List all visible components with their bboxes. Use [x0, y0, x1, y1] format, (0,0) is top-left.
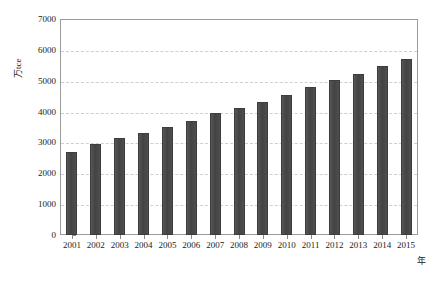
- x-axis-tick-mark: [215, 235, 216, 239]
- x-axis-tick-label: 2001: [63, 240, 81, 250]
- gridline: [61, 51, 417, 52]
- x-axis-tick-mark: [96, 235, 97, 239]
- y-axis-tick-label: 6000: [16, 45, 56, 55]
- y-axis-tick-label: 3000: [16, 137, 56, 147]
- x-axis-tick-mark: [358, 235, 359, 239]
- gridline: [61, 113, 417, 114]
- x-axis-title: 年: [417, 254, 426, 267]
- x-axis-tick-mark: [120, 235, 121, 239]
- y-axis-tick-label: 0: [16, 230, 56, 240]
- x-axis-tick-label: 2005: [158, 240, 176, 250]
- x-axis-tick-label: 2002: [87, 240, 105, 250]
- x-axis-tick-mark: [239, 235, 240, 239]
- y-axis-tick-label: 7000: [16, 14, 56, 24]
- x-axis-tick-mark: [311, 235, 312, 239]
- x-axis-tick-label: 2004: [135, 240, 153, 250]
- x-axis-tick-label: 2013: [349, 240, 367, 250]
- x-axis-tick-mark: [334, 235, 335, 239]
- y-axis-tick-labels: 01000200030004000500060007000: [12, 19, 56, 235]
- x-axis-tick-mark: [144, 235, 145, 239]
- x-axis-tick-label: 2006: [182, 240, 200, 250]
- y-axis-tick-label: 4000: [16, 107, 56, 117]
- x-axis-tick-label: 2003: [111, 240, 129, 250]
- plot-area: [60, 19, 418, 235]
- x-axis-tick-mark: [406, 235, 407, 239]
- x-axis-tick-labels: 2001200220032004200520062007200820092010…: [60, 240, 418, 254]
- bar-chart-figure: 万tce 01000200030004000500060007000 20012…: [0, 0, 448, 281]
- y-axis-tick-label: 2000: [16, 168, 56, 178]
- x-axis-tick-label: 2014: [373, 240, 391, 250]
- x-axis-tick-label: 2011: [302, 240, 320, 250]
- x-axis-tick-label: 2015: [397, 240, 415, 250]
- x-axis-tick-label: 2010: [278, 240, 296, 250]
- x-axis-tick-mark: [167, 235, 168, 239]
- x-axis-tick-mark: [382, 235, 383, 239]
- gridline: [61, 174, 417, 175]
- y-axis-tick-label: 5000: [16, 76, 56, 86]
- gridline: [61, 82, 417, 83]
- x-axis-tick-label: 2009: [254, 240, 272, 250]
- x-axis-tick-mark: [72, 235, 73, 239]
- x-axis-tick-label: 2012: [325, 240, 343, 250]
- x-axis-tick-label: 2007: [206, 240, 224, 250]
- x-axis-tick-mark: [191, 235, 192, 239]
- x-axis-tick-mark: [287, 235, 288, 239]
- x-axis-tick-label: 2008: [230, 240, 248, 250]
- y-axis-tick-label: 1000: [16, 199, 56, 209]
- x-axis-tick-mark: [263, 235, 264, 239]
- gridline: [61, 205, 417, 206]
- gridline: [61, 143, 417, 144]
